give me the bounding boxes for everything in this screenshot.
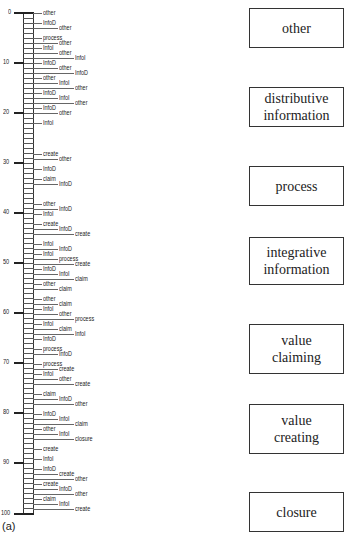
leaf-label: other xyxy=(59,374,71,383)
axis-rung xyxy=(23,128,34,129)
leaf-label: create xyxy=(43,479,58,488)
axis-rung xyxy=(23,388,34,389)
leaf-label: InfoD xyxy=(59,224,72,233)
leaf-connector xyxy=(33,364,42,365)
leaf-connector xyxy=(33,184,58,185)
leaf-label: InfoI xyxy=(43,454,54,463)
leaf-label: InfoI xyxy=(59,269,70,278)
leaf-label: other xyxy=(75,399,87,408)
leaf-label: closure xyxy=(75,434,93,443)
leaf-label: InfoD xyxy=(59,349,72,358)
leaf-label: other xyxy=(59,48,71,57)
leaf-label: InfoI xyxy=(43,118,54,127)
axis-tick-label: 20 xyxy=(3,108,9,115)
leaf-label: create xyxy=(43,444,58,453)
leaf-connector xyxy=(33,309,42,310)
legend-box-other: other xyxy=(249,8,344,48)
axis-rung xyxy=(23,443,34,444)
axis-tick-label: 90 xyxy=(3,458,9,465)
leaf-connector xyxy=(33,63,42,64)
leaf-label: InfoD xyxy=(43,58,56,67)
leaf-label: InfoI xyxy=(43,319,54,328)
leaf-label: claim xyxy=(59,324,72,333)
leaf-connector xyxy=(33,299,42,300)
leaf-label: other xyxy=(43,73,55,82)
axis-rung xyxy=(23,193,34,194)
leaf-label: InfoD xyxy=(59,484,72,493)
leaf-label: InfoI xyxy=(75,329,86,338)
axis-cap xyxy=(14,12,34,14)
leaf-label: create xyxy=(75,504,90,513)
leaf-connector xyxy=(33,504,58,505)
axis-rung xyxy=(23,293,34,294)
leaf-label: InfoD xyxy=(43,164,56,173)
leaf-connector xyxy=(33,254,42,255)
leaf-connector xyxy=(33,459,42,460)
axis-tick-label: 40 xyxy=(3,208,9,215)
leaf-connector xyxy=(33,154,42,155)
leaf-label: other xyxy=(59,23,71,32)
axis-rung xyxy=(23,138,34,139)
leaf-label: other xyxy=(43,199,55,208)
leaf-connector xyxy=(33,414,42,415)
leaf-label: InfoD xyxy=(43,88,56,97)
leaf-connector xyxy=(33,269,42,270)
leaf-connector xyxy=(33,474,58,475)
leaf-label: other xyxy=(75,474,87,483)
axis-rung xyxy=(23,173,34,174)
leaf-connector xyxy=(33,68,58,69)
leaf-label: create xyxy=(75,379,90,388)
leaf-label: InfoI xyxy=(59,93,70,102)
axis-tick xyxy=(14,412,24,414)
leaf-label: other xyxy=(75,83,87,92)
figure-caption: (a) xyxy=(2,520,15,532)
leaf-label: InfoI xyxy=(43,249,54,258)
leaf-label: InfoD xyxy=(43,409,56,418)
leaf-connector xyxy=(33,449,42,450)
leaf-connector xyxy=(33,28,58,29)
leaf-label: other xyxy=(59,108,71,117)
axis-tick xyxy=(14,212,24,214)
leaf-connector xyxy=(33,78,42,79)
leaf-label: claim xyxy=(75,274,88,283)
axis-rung xyxy=(23,33,34,34)
leaf-connector xyxy=(33,48,42,49)
leaf-connector xyxy=(33,469,42,470)
leaf-connector xyxy=(33,23,42,24)
leaf-connector xyxy=(33,38,42,39)
leaf-connector xyxy=(33,83,58,84)
leaf-label: create xyxy=(75,259,90,268)
leaf-connector xyxy=(33,434,58,435)
leaf-connector xyxy=(33,169,42,170)
leaf-label: InfoD xyxy=(43,103,56,112)
legend-box-process: process xyxy=(249,166,344,206)
leaf-label: InfoI xyxy=(59,429,70,438)
leaf-label: InfoI xyxy=(43,209,54,218)
axis-rung xyxy=(23,18,34,19)
leaf-connector xyxy=(33,229,58,230)
leaf-label: other xyxy=(59,38,71,47)
axis-rung xyxy=(23,163,34,164)
axis-rung xyxy=(23,118,34,119)
leaf-connector xyxy=(33,339,42,340)
axis-tick-label: 10 xyxy=(3,58,9,65)
leaf-label: InfoI xyxy=(75,53,86,62)
leaf-label: claim xyxy=(43,494,56,503)
leaf-connector xyxy=(33,404,74,405)
leaf-connector xyxy=(33,399,58,400)
leaf-label: InfoD xyxy=(43,464,56,473)
axis-rung xyxy=(23,408,34,409)
leaf-connector xyxy=(33,384,74,385)
leaf-label: other xyxy=(43,424,55,433)
leaf-connector xyxy=(33,499,42,500)
axis-tick xyxy=(14,62,24,64)
sequence-tree: 0102030405060708090100 otherInfoDotherpr… xyxy=(0,0,240,538)
leaf-connector xyxy=(33,13,42,14)
leaf-label: claim xyxy=(43,389,56,398)
axis-rung xyxy=(23,358,34,359)
leaf-connector xyxy=(33,349,42,350)
axis-tick-label: 50 xyxy=(3,258,9,265)
leaf-connector xyxy=(33,374,42,375)
leaf-label: InfoI xyxy=(43,304,54,313)
axis-rung xyxy=(23,238,34,239)
